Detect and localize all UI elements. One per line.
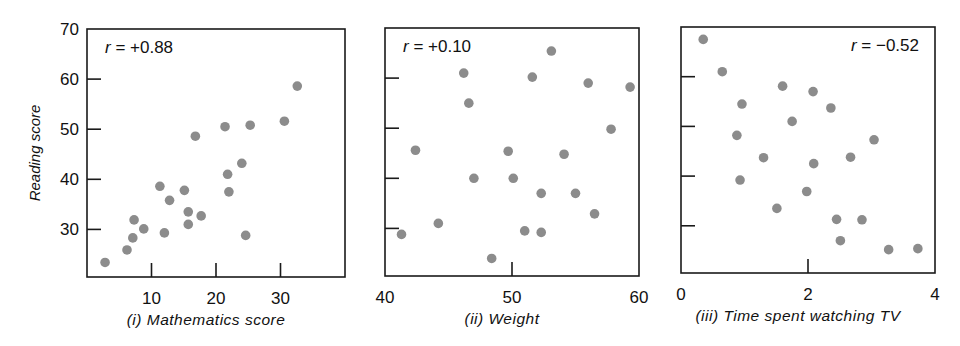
data-point — [787, 117, 797, 127]
data-point — [122, 245, 132, 255]
data-point — [191, 131, 201, 141]
data-point — [183, 220, 193, 230]
data-point — [732, 131, 742, 141]
data-point — [759, 153, 769, 163]
data-point — [809, 159, 819, 169]
data-point — [245, 120, 255, 130]
correlation-annotation: r = +0.88 — [105, 38, 173, 57]
data-point — [128, 233, 138, 243]
data-point — [583, 78, 593, 88]
data-point — [559, 149, 569, 159]
data-point — [459, 68, 469, 78]
data-point — [464, 98, 474, 108]
data-point — [826, 103, 836, 113]
data-point — [625, 82, 635, 92]
data-point — [397, 230, 407, 240]
x-axis-label: (ii) Weight — [465, 310, 540, 327]
data-point — [237, 158, 247, 168]
data-point — [884, 245, 894, 255]
data-point — [100, 258, 110, 268]
data-point — [160, 228, 170, 238]
scatter-panel-3: 024(iii) Time spent watching TVr = −0.52 — [676, 27, 939, 324]
scatter-panel-1: 3040506070102030(i) Mathematics scorer =… — [60, 20, 345, 328]
data-point — [735, 175, 745, 185]
data-point — [846, 152, 856, 162]
data-point — [772, 204, 782, 214]
data-point — [196, 211, 206, 221]
data-point — [165, 196, 175, 206]
data-point — [129, 215, 139, 225]
data-point — [869, 135, 879, 145]
data-point — [698, 35, 708, 45]
data-point — [832, 215, 842, 225]
data-point — [606, 124, 616, 134]
correlation-annotation: r = +0.10 — [403, 37, 471, 56]
plot-frame — [681, 27, 935, 273]
data-point — [183, 207, 193, 217]
x-tick-label: 40 — [376, 288, 395, 307]
y-tick-label: 40 — [60, 170, 79, 189]
x-tick-label: 30 — [271, 289, 290, 308]
y-tick-label: 50 — [60, 120, 79, 139]
data-point — [503, 146, 513, 156]
data-point — [717, 67, 727, 77]
data-point — [411, 145, 421, 155]
data-point — [802, 187, 812, 197]
data-point — [808, 87, 818, 97]
y-tick-label: 70 — [60, 20, 79, 39]
data-point — [836, 236, 846, 246]
data-point — [434, 219, 444, 229]
y-axis-label: Reading score — [26, 105, 43, 202]
data-point — [155, 182, 165, 192]
data-point — [737, 99, 747, 109]
x-tick-label: 4 — [930, 285, 939, 304]
data-point — [180, 186, 190, 196]
data-point — [536, 189, 546, 199]
data-point — [241, 231, 251, 241]
data-point — [280, 116, 290, 126]
x-tick-label: 60 — [630, 288, 649, 307]
correlation-annotation: r = −0.52 — [851, 36, 919, 55]
x-tick-label: 0 — [676, 285, 685, 304]
y-tick-label: 60 — [60, 70, 79, 89]
data-point — [139, 224, 149, 234]
scatter-figure: Reading score 3040506070102030(i) Mathem… — [0, 0, 960, 346]
scatter-panel-2: 405060(ii) Weightr = +0.10 — [376, 28, 649, 327]
y-tick-label: 30 — [60, 220, 79, 239]
data-point — [220, 122, 230, 132]
data-point — [913, 244, 923, 254]
x-tick-label: 10 — [142, 289, 161, 308]
data-point — [571, 189, 581, 199]
data-point — [292, 81, 302, 91]
data-point — [223, 169, 233, 179]
data-point — [487, 254, 497, 264]
x-tick-label: 2 — [803, 285, 812, 304]
data-point — [778, 81, 788, 91]
data-point — [536, 228, 546, 238]
data-point — [547, 46, 557, 56]
data-point — [528, 72, 538, 82]
data-point — [508, 174, 518, 184]
data-point — [520, 226, 530, 236]
data-point — [857, 215, 867, 225]
plot-frame — [87, 29, 345, 277]
x-tick-label: 20 — [207, 289, 226, 308]
x-tick-label: 50 — [503, 288, 522, 307]
x-axis-label: (i) Mathematics score — [127, 311, 286, 328]
x-axis-label: (iii) Time spent watching TV — [695, 307, 901, 324]
data-point — [224, 187, 234, 197]
data-point — [590, 209, 600, 219]
data-point — [469, 174, 479, 184]
